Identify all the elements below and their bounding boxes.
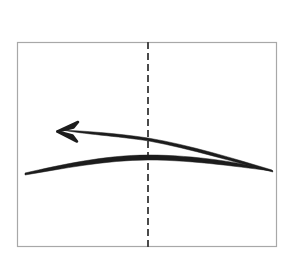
diagram-canvas (0, 0, 301, 256)
origami-diagram: Origami fold step diagram A rectangular … (0, 0, 301, 256)
